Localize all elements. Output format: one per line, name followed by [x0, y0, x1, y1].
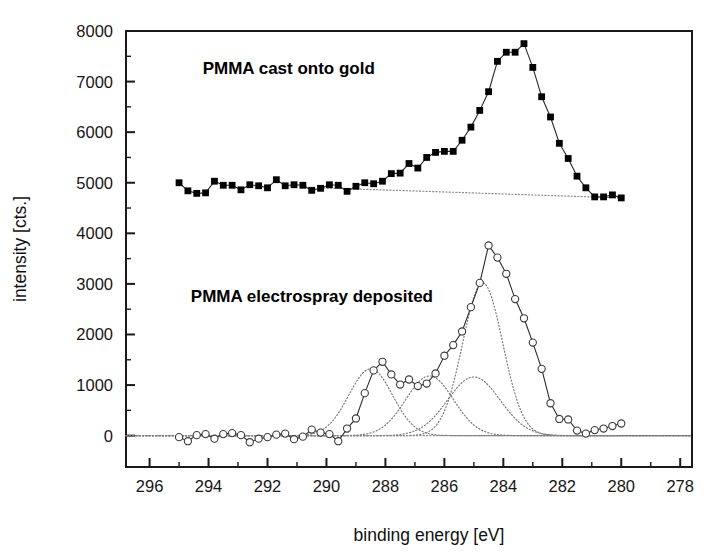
series-annotation-2: PMMA electrospray deposited [191, 287, 433, 306]
data-marker-square [582, 184, 589, 191]
data-marker-square [317, 185, 324, 192]
data-marker-square [556, 140, 563, 147]
data-marker-circle [299, 433, 306, 440]
data-marker-circle [273, 431, 280, 438]
y-tick-label: 2000 [76, 325, 113, 343]
data-marker-square [565, 155, 572, 162]
data-marker-circle [335, 438, 342, 445]
plot-frame [126, 31, 692, 467]
data-marker-circle [520, 315, 527, 322]
y-tick-label: 3000 [76, 275, 113, 293]
data-marker-square [600, 194, 607, 201]
data-marker-square [609, 191, 616, 198]
data-marker-square [476, 107, 483, 114]
series-annotation-1: PMMA cast onto gold [203, 59, 375, 78]
data-marker-circle [573, 427, 580, 434]
y-tick-label: 8000 [76, 22, 113, 40]
fit-component-curve [126, 283, 691, 436]
data-marker-circle [609, 422, 616, 429]
data-marker-square [618, 195, 625, 202]
data-marker-square [512, 49, 519, 56]
data-marker-square [529, 64, 536, 71]
figure-canvas: 2962942922902882862842822802780100020003… [0, 0, 725, 560]
data-marker-circle [229, 430, 236, 437]
data-marker-circle [397, 381, 404, 388]
data-curve [179, 245, 621, 442]
data-marker-circle [352, 415, 359, 422]
data-marker-square [255, 182, 262, 189]
data-marker-circle [476, 279, 483, 286]
data-marker-circle [282, 430, 289, 437]
data-marker-circle [512, 295, 519, 302]
data-marker-square [397, 170, 404, 177]
data-marker-square [423, 154, 430, 161]
data-marker-square [521, 40, 528, 47]
data-marker-circle [184, 438, 191, 445]
data-marker-square [299, 182, 306, 189]
data-marker-circle [423, 380, 430, 387]
data-marker-circle [600, 425, 607, 432]
x-tick-label: 280 [607, 477, 635, 495]
data-marker-circle [441, 352, 448, 359]
data-marker-circle [538, 365, 545, 372]
data-marker-square [246, 181, 253, 188]
data-marker-circle [405, 376, 412, 383]
y-tick-label: 4000 [76, 224, 113, 242]
data-marker-square [432, 149, 439, 156]
data-marker-circle [565, 416, 572, 423]
y-tick-label: 1000 [76, 376, 113, 394]
data-marker-circle [237, 432, 244, 439]
data-marker-square [459, 137, 466, 144]
data-marker-square [193, 190, 200, 197]
data-marker-circle [450, 342, 457, 349]
data-marker-circle [388, 371, 395, 378]
data-marker-circle [467, 304, 474, 311]
y-axis-title: intensity [cts.] [10, 196, 30, 302]
x-tick-label: 282 [549, 477, 577, 495]
data-marker-square [503, 49, 510, 56]
data-marker-square [344, 188, 351, 195]
data-marker-square [379, 178, 386, 185]
x-tick-label: 288 [372, 477, 400, 495]
data-marker-circle [326, 431, 333, 438]
data-marker-circle [582, 430, 589, 437]
data-marker-circle [264, 434, 271, 441]
y-tick-label: 0 [104, 427, 113, 445]
data-marker-square [370, 180, 377, 187]
data-marker-square [468, 124, 475, 131]
data-marker-circle [556, 415, 563, 422]
data-marker-circle [370, 367, 377, 374]
data-marker-square [353, 183, 360, 190]
data-marker-square [591, 194, 598, 201]
data-marker-circle [343, 425, 350, 432]
data-marker-circle [202, 431, 209, 438]
data-marker-circle [432, 370, 439, 377]
x-axis-title: binding energy [eV] [354, 525, 505, 545]
x-tick-label: 292 [254, 477, 282, 495]
data-marker-square [282, 182, 289, 189]
x-tick-label: 284 [490, 477, 518, 495]
data-marker-square [406, 160, 413, 167]
data-marker-circle [317, 429, 324, 436]
data-marker-circle [591, 426, 598, 433]
data-marker-circle [193, 432, 200, 439]
data-marker-square [308, 187, 315, 194]
data-marker-square [229, 182, 236, 189]
x-tick-label: 290 [313, 477, 341, 495]
data-marker-square [326, 181, 333, 188]
data-marker-circle [485, 242, 492, 249]
data-marker-circle [494, 254, 501, 261]
data-marker-square [238, 186, 245, 193]
data-marker-circle [211, 435, 218, 442]
data-marker-square [185, 187, 192, 194]
data-marker-circle [618, 420, 625, 427]
data-marker-circle [255, 435, 262, 442]
baseline-dotted [321, 188, 622, 198]
data-marker-circle [503, 270, 510, 277]
x-tick-label: 296 [136, 477, 164, 495]
data-marker-square [335, 182, 342, 189]
data-marker-square [202, 189, 209, 196]
data-marker-circle [529, 339, 536, 346]
data-marker-square [574, 173, 581, 180]
data-marker-square [494, 58, 501, 65]
